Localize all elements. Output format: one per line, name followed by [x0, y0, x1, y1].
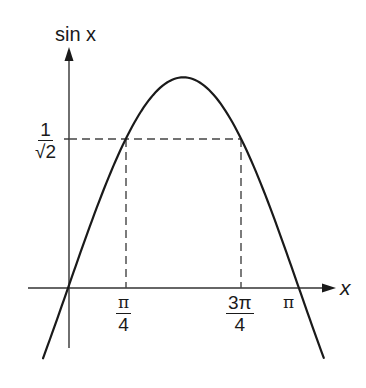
x-tick1-denominator: 4: [118, 314, 129, 334]
sine-plot: [0, 0, 366, 388]
x-tick2-denominator: 4: [235, 314, 246, 334]
y-tick-denominator: √2: [35, 141, 56, 161]
x-tick-label-3pi-over-4: 3π 4: [226, 293, 254, 334]
x-axis-label: x: [340, 276, 351, 300]
y-axis-arrow-icon: [65, 47, 74, 61]
x-tick1-numerator: π: [116, 293, 131, 314]
x-axis-label-text: x: [340, 276, 351, 299]
x-axis-arrow-icon: [322, 284, 336, 293]
x-tick3-text: π: [283, 292, 294, 312]
sine-curve: [43, 77, 324, 358]
y-tick-numerator: 1: [38, 120, 53, 141]
y-axis-label-text: sin x: [55, 23, 96, 45]
x-tick2-numerator: 3π: [226, 293, 254, 314]
y-axis-label: sin x: [55, 23, 96, 46]
x-tick-label-pi: π: [283, 292, 294, 312]
x-tick-label-pi-over-4: π 4: [116, 293, 131, 334]
y-tick-label-1-over-root2: 1 √2: [35, 120, 56, 161]
